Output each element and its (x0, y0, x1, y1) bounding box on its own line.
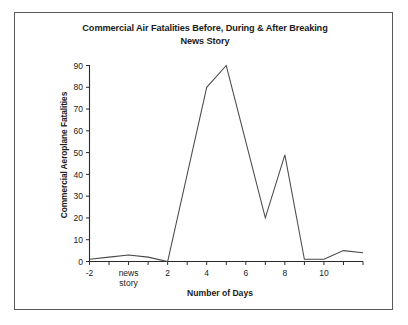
data-series-line (90, 66, 364, 262)
y-tick-label: 80 (74, 82, 84, 92)
y-tick-label: 0 (78, 257, 83, 267)
news-story-annotation: newsstory (119, 268, 139, 288)
y-tick-label: 40 (74, 170, 84, 180)
y-tick-label: 50 (74, 148, 84, 158)
x-tick-label: 4 (204, 268, 209, 278)
chart-page: Commercial Air Fatalities Before, During… (0, 0, 408, 325)
y-tick-label: 60 (74, 126, 84, 136)
y-axis-tick-labels: 0102030405060708090 (74, 61, 84, 267)
x-tick-label: 8 (282, 268, 287, 278)
y-tick-label: 10 (74, 235, 84, 245)
x-tick-label: 10 (319, 268, 329, 278)
y-tick-label: 90 (74, 61, 84, 71)
x-tick-label: -2 (86, 268, 94, 278)
news-story-label-line-1: news (119, 268, 139, 278)
x-tick-label: 6 (243, 268, 248, 278)
x-tick-label: 2 (165, 268, 170, 278)
y-tick-label: 20 (74, 213, 84, 223)
news-story-label-line-2: story (119, 278, 138, 288)
y-tick-label: 30 (74, 191, 84, 201)
y-tick-label: 70 (74, 104, 84, 114)
line-chart-plot: -2246810 0102030405060708090 newsstory (0, 0, 408, 325)
